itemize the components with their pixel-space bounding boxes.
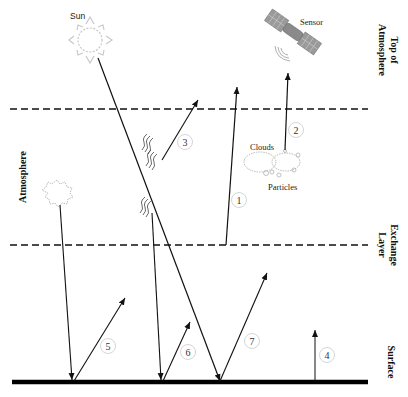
clouds-icon [244, 152, 300, 172]
exchange-layer-label: Exchange Layer [377, 224, 400, 266]
radiation-paths-diagram: Sun Sensor Clouds Particles [0, 0, 408, 397]
path-2-arrow [285, 73, 288, 150]
path-4-badge: 4 [320, 348, 335, 363]
scattered-down-arrow [60, 205, 72, 380]
path-7-arrow [220, 273, 267, 381]
svg-text:2: 2 [294, 125, 299, 136]
sun-label: Sun [70, 11, 85, 21]
svg-text:Surface: Surface [386, 346, 397, 379]
path-7-badge: 7 [245, 334, 260, 349]
path-1-badge: 1 [232, 193, 247, 208]
svg-text:Top of: Top of [389, 36, 400, 64]
path-1-arrow [226, 87, 237, 245]
sun-icon [69, 17, 112, 63]
path-5-badge: 5 [101, 339, 116, 354]
path-5-arrow [74, 298, 125, 381]
svg-text:4: 4 [325, 350, 330, 361]
signal-waves-icon [275, 46, 290, 61]
path-3-badge: 3 [178, 135, 193, 150]
particles-label: Particles [268, 182, 297, 192]
clouds-label: Clouds [250, 142, 274, 152]
path-2-badge: 2 [289, 123, 304, 138]
incoming-solar-ray [98, 58, 220, 381]
svg-text:Atmosphere: Atmosphere [377, 24, 388, 77]
path-6-badge: 6 [181, 345, 196, 360]
svg-text:7: 7 [250, 336, 255, 347]
satellite-sensor-icon [264, 9, 321, 55]
scattering-burst-icon [42, 180, 73, 207]
svg-text:Atmosphere: Atmosphere [17, 150, 28, 203]
surface-label: Surface [386, 346, 397, 379]
svg-text:Exchange: Exchange [389, 224, 400, 266]
sensor-label: Sensor [300, 17, 323, 27]
top-of-atmosphere-label: Top of Atmosphere [377, 24, 400, 77]
svg-text:3: 3 [183, 137, 188, 148]
svg-text:1: 1 [237, 195, 242, 206]
atmosphere-label: Atmosphere [17, 150, 28, 203]
emitted-down-arrow [152, 213, 161, 380]
svg-text:6: 6 [186, 347, 191, 358]
svg-text:5: 5 [106, 341, 111, 352]
svg-text:Layer: Layer [377, 232, 388, 258]
